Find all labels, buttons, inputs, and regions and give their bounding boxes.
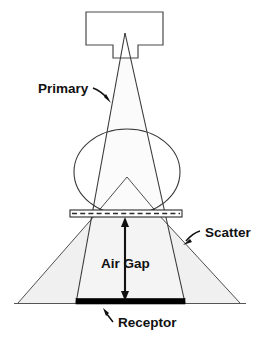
receptor-leader-arrow <box>103 308 113 322</box>
anti-scatter-grid <box>70 210 182 217</box>
label-primary: Primary <box>38 81 89 96</box>
label-air-gap: Air Gap <box>101 256 150 271</box>
label-scatter: Scatter <box>205 225 252 240</box>
diagram-canvas: Primary Scatter Air Gap Receptor <box>0 0 262 337</box>
label-receptor: Receptor <box>118 315 177 330</box>
air-gap-diagram: Primary Scatter Air Gap Receptor <box>0 0 262 337</box>
image-receptor <box>76 299 185 305</box>
primary-leader-arrow <box>93 88 111 103</box>
scatter-leader-arrow <box>183 231 200 245</box>
